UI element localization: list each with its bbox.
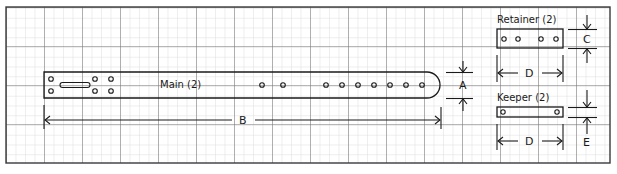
dimension-b-label: B bbox=[239, 114, 247, 127]
dimension-d-retainer-label: D bbox=[525, 67, 533, 80]
dimension-d-keeper-label: D bbox=[525, 135, 533, 148]
keeper-label: Keeper (2) bbox=[497, 92, 549, 103]
dimension-e-label: E bbox=[583, 136, 590, 149]
strap-pattern-diagram: Main (2) A B Retainer (2) bbox=[0, 0, 617, 174]
main-strap-label: Main (2) bbox=[160, 79, 201, 90]
retainer-label: Retainer (2) bbox=[497, 14, 557, 25]
dimension-a-label: A bbox=[459, 79, 467, 92]
dimension-c-label: C bbox=[583, 33, 591, 46]
grid bbox=[6, 7, 610, 163]
